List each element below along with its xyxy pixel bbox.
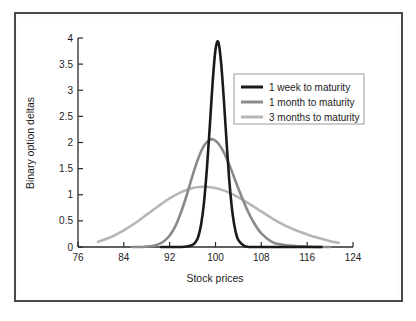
x-tick-label: 84 bbox=[118, 252, 130, 263]
figure-root: 00.511.522.533.54 768492100108116124 Sto… bbox=[0, 0, 416, 321]
y-tick-label: 3 bbox=[67, 85, 73, 96]
y-tick-label: 3.5 bbox=[59, 59, 73, 70]
chart-legend: 1 week to maturity1 month to maturity3 m… bbox=[234, 74, 364, 124]
binary-option-deltas-chart: 00.511.522.533.54 768492100108116124 Sto… bbox=[0, 0, 416, 321]
y-tick-label: 0.5 bbox=[59, 215, 73, 226]
series-line-0 bbox=[161, 41, 321, 247]
x-axis-title: Stock prices bbox=[186, 272, 243, 284]
y-tick-label: 1.5 bbox=[59, 163, 73, 174]
x-tick-label: 108 bbox=[253, 252, 270, 263]
y-tick-label: 4 bbox=[67, 33, 73, 44]
x-tick-label: 76 bbox=[72, 252, 84, 263]
series-group bbox=[98, 41, 339, 247]
y-tick-label: 2 bbox=[67, 137, 73, 148]
legend-label-2: 3 months to maturity bbox=[269, 112, 360, 123]
x-tick-label: 116 bbox=[299, 252, 315, 263]
x-axis-ticks: 768492100108116124 bbox=[72, 242, 361, 263]
y-axis-title: Binary option deltas bbox=[24, 97, 36, 189]
x-tick-label: 100 bbox=[207, 252, 224, 263]
legend-label-1: 1 month to maturity bbox=[269, 97, 355, 108]
y-tick-label: 2.5 bbox=[59, 111, 73, 122]
series-line-2 bbox=[98, 187, 339, 243]
x-tick-label: 92 bbox=[164, 252, 176, 263]
x-tick-label: 124 bbox=[345, 252, 362, 263]
y-tick-label: 0 bbox=[67, 242, 73, 253]
legend-label-0: 1 week to maturity bbox=[269, 82, 350, 93]
y-axis-ticks: 00.511.522.533.54 bbox=[59, 33, 83, 253]
axes-group bbox=[78, 38, 353, 247]
y-tick-label: 1 bbox=[67, 189, 73, 200]
